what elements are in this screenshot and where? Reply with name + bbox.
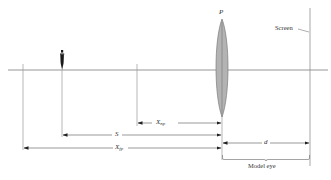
x-fp-sub: fp — [119, 146, 123, 151]
x-np-sub: np — [160, 121, 165, 126]
model-eye-label: Model eye — [248, 163, 276, 170]
object-figure-icon — [60, 50, 64, 70]
x-np-label: Xnp — [155, 119, 166, 126]
s-label: S — [114, 131, 120, 138]
x-fp-label: Xfp — [114, 144, 124, 151]
screen-label: Screen — [275, 25, 293, 32]
model-eye-brace — [223, 155, 310, 161]
screen-leader — [298, 29, 309, 32]
lens-label: P — [219, 9, 223, 16]
d-label: d — [263, 139, 269, 146]
model-eye-diagram: P Screen Xnp S Xfp d Model eye — [0, 0, 331, 180]
